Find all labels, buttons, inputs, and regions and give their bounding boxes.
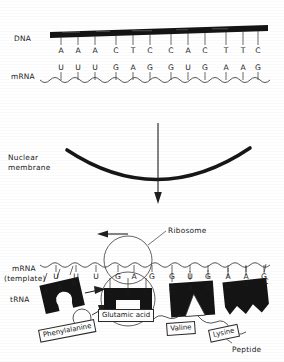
dna-base: C <box>145 46 155 55</box>
ribosome-large-subunit <box>104 236 152 284</box>
translation-mrna-backbone-wave <box>40 263 270 268</box>
dna-base: C <box>111 46 121 55</box>
ribosome-direction-arrow-head <box>97 230 108 237</box>
anticodon-base: A <box>185 284 195 293</box>
dna-base: A <box>90 46 100 55</box>
anticodon-base: U <box>241 279 251 288</box>
translation-mrna-ticks <box>56 265 264 272</box>
anticodon-base: U <box>123 288 133 297</box>
dna-base: C <box>166 46 176 55</box>
mrna-base: U <box>183 63 193 72</box>
codon-base: A <box>129 272 139 281</box>
dna-base: T <box>128 46 138 55</box>
codon-base: G <box>113 272 123 281</box>
dna-base: T <box>221 46 231 55</box>
mrna-tick-marks <box>61 72 258 80</box>
mrna-base: U <box>90 63 100 72</box>
transcription-graphics <box>0 0 284 120</box>
mrna-base: G <box>253 63 263 72</box>
codon-base: U <box>185 272 195 281</box>
codon-base: G <box>147 272 157 281</box>
mrna-base: G <box>200 63 210 72</box>
anticodon-base: U <box>223 281 233 290</box>
mrna-base: G <box>111 63 121 72</box>
amino-acid-label-glutamic-acid: Glutamic acid <box>98 309 154 322</box>
protein-synthesis-figure: DNA mRNA <box>0 0 284 362</box>
anticodon-base: C <box>141 288 151 297</box>
dna-base: A <box>73 46 83 55</box>
anticodon-base: C <box>105 288 115 297</box>
amino-acid-label-valine: Valine <box>166 321 196 336</box>
dna-base: A <box>56 46 66 55</box>
codon-base: G <box>167 272 177 281</box>
dna-base: C <box>253 46 263 55</box>
codon-base: A <box>223 272 233 281</box>
mrna-base: U <box>56 63 66 72</box>
codon-base: G <box>203 272 213 281</box>
dna-base: A <box>183 46 193 55</box>
anticodon-base: C <box>261 277 271 286</box>
mrna-base: A <box>238 63 248 72</box>
dna-strand-bar <box>50 25 268 38</box>
dna-base: T <box>238 46 248 55</box>
dna-base: C <box>200 46 210 55</box>
transport-arrow-head <box>154 192 162 204</box>
mrna-base: G <box>166 63 176 72</box>
anticodon-base: C <box>167 285 177 294</box>
mrna-base: U <box>73 63 83 72</box>
mrna-backbone-wave <box>40 78 270 83</box>
ribosome-leader-line <box>148 231 166 245</box>
mrna-base: A <box>128 63 138 72</box>
codon-base: U <box>51 272 61 281</box>
codon-base: U <box>91 272 101 281</box>
mrna-base: G <box>145 63 155 72</box>
anticodon-base: C <box>203 283 213 292</box>
mrna-base: A <box>221 63 231 72</box>
